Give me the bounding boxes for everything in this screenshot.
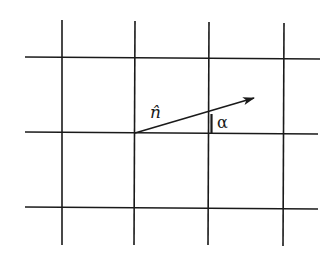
grid: [25, 20, 320, 246]
angle-label: α: [217, 113, 228, 132]
lattice-diagram: n̂ α: [0, 0, 333, 259]
unit-vector: n̂: [135, 98, 254, 133]
vector-label: n̂: [150, 102, 161, 122]
angle-marker: α: [212, 113, 229, 133]
horizontal-grid-line: [25, 57, 320, 59]
horizontal-grid-line: [25, 207, 318, 209]
horizontal-grid-line: [25, 132, 318, 134]
